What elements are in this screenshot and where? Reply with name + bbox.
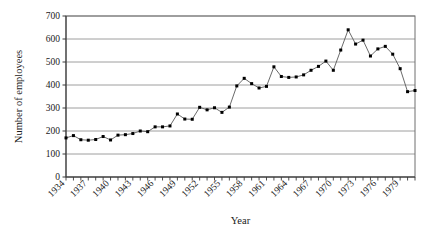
x-tick-label-1958: 1958	[224, 178, 245, 199]
data-point-1938	[94, 138, 97, 141]
data-point-1954	[213, 106, 216, 109]
data-point-1950	[183, 118, 186, 121]
x-tick-label-1952: 1952	[180, 178, 201, 199]
data-point-1948	[168, 124, 171, 127]
data-point-1934	[65, 136, 68, 139]
employees-by-year-chart: 0100200300400500600700193419371940194319…	[0, 0, 435, 238]
x-tick-label-1979: 1979	[380, 178, 401, 199]
data-point-1940	[109, 138, 112, 141]
data-point-1969	[324, 60, 327, 63]
data-point-1981	[414, 89, 417, 92]
data-point-1968	[317, 65, 320, 68]
x-tick-label-1967: 1967	[291, 178, 312, 199]
data-point-1935	[72, 134, 75, 137]
x-tick-label-1964: 1964	[269, 178, 290, 199]
data-point-1975	[369, 55, 372, 58]
data-point-1970	[332, 69, 335, 72]
data-point-1974	[362, 39, 365, 42]
x-tick-label-1961: 1961	[246, 178, 267, 199]
data-point-1951	[191, 118, 194, 121]
data-point-1943	[131, 132, 134, 135]
data-point-1978	[391, 53, 394, 56]
x-tick-label-1955: 1955	[202, 178, 223, 199]
y-tick-label-500: 500	[46, 57, 61, 67]
x-axis-title: Year	[231, 215, 251, 226]
y-tick-label-300: 300	[46, 103, 61, 113]
x-tick-label-1943: 1943	[113, 178, 134, 199]
x-tick-label-1940: 1940	[90, 178, 111, 199]
data-point-1945	[146, 130, 149, 133]
data-point-1949	[176, 112, 179, 115]
x-tick-label-1973: 1973	[336, 178, 357, 199]
data-point-1941	[116, 134, 119, 137]
y-tick-label-200: 200	[46, 126, 61, 136]
data-point-1977	[384, 45, 387, 48]
data-point-1939	[102, 135, 105, 138]
y-tick-label-700: 700	[46, 11, 61, 21]
data-point-1979	[399, 67, 402, 70]
chart-canvas: 0100200300400500600700193419371940194319…	[0, 0, 435, 238]
data-point-1942	[124, 133, 127, 136]
x-tick-label-1937: 1937	[68, 178, 89, 199]
data-point-1966	[302, 73, 305, 76]
x-tick-label-1946: 1946	[135, 178, 156, 199]
data-point-1936	[79, 138, 82, 141]
data-point-1980	[406, 90, 409, 93]
data-point-1962	[272, 65, 275, 68]
data-point-1963	[280, 75, 283, 78]
data-point-1961	[265, 85, 268, 88]
data-point-1960	[258, 86, 261, 89]
y-tick-label-400: 400	[46, 80, 61, 90]
data-point-1964	[287, 76, 290, 79]
data-point-1976	[376, 47, 379, 50]
data-point-1972	[347, 28, 350, 31]
data-point-1956	[228, 106, 231, 109]
data-point-1947	[161, 125, 164, 128]
x-tick-label-1970: 1970	[313, 178, 334, 199]
data-point-1944	[139, 130, 142, 133]
x-tick-label-1949: 1949	[157, 178, 178, 199]
data-point-1953	[206, 108, 209, 111]
data-point-1958	[243, 77, 246, 80]
data-point-1957	[235, 84, 238, 87]
data-point-1959	[250, 82, 253, 85]
x-tick-label-1976: 1976	[358, 178, 379, 199]
y-tick-label-100: 100	[46, 149, 61, 159]
data-point-1946	[154, 125, 157, 128]
data-point-1965	[295, 75, 298, 78]
data-point-1955	[220, 111, 223, 114]
x-tick-label-1934: 1934	[46, 178, 67, 199]
y-axis-title: Number of employees	[13, 50, 24, 143]
data-point-1973	[354, 43, 357, 46]
data-point-1971	[339, 49, 342, 52]
data-point-1937	[87, 139, 90, 142]
y-tick-label-600: 600	[46, 34, 61, 44]
data-point-1952	[198, 106, 201, 109]
data-point-1967	[310, 69, 313, 72]
